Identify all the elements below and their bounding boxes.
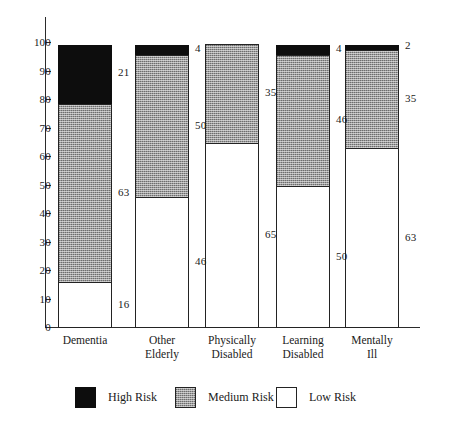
bar-segment-medium-risk[interactable] [58,104,112,284]
bar-segment-low-risk[interactable] [345,148,399,328]
y-tick-label: 90 [25,66,51,77]
y-tick-label: 10 [25,294,51,305]
bar-column[interactable] [135,45,189,327]
legend-item-high-risk[interactable]: High Risk [75,386,157,408]
data-value-label: 50 [336,251,347,262]
data-value-label: 16 [118,299,129,310]
x-axis-label-line1: Dementia [63,334,108,346]
data-value-label: 50 [195,120,206,131]
bar-column[interactable] [58,45,112,327]
x-axis-label-0: Dementia [42,333,128,347]
bar-segment-high-risk[interactable] [58,45,112,105]
x-axis-label-line1: Mentally [351,334,393,346]
legend-swatch-low-risk [276,387,297,408]
bar-column[interactable] [205,44,259,327]
legend-label: High Risk [108,391,157,403]
y-tick-label-wrap: 70 [0,123,51,134]
data-value-label: 35 [405,93,416,104]
bar-segment-medium-risk[interactable] [345,50,399,150]
x-axis-label-line1: Learning [282,334,324,346]
y-tick-label-wrap: 20 [0,265,51,276]
x-axis-label-line1: Physically [208,334,256,346]
y-tick-label: 0 [25,322,51,333]
data-value-label: 35 [265,87,276,98]
y-tick-label: 70 [25,123,51,134]
data-value-label: 21 [118,67,129,78]
y-tick-label: 30 [25,237,51,248]
bar-segment-medium-risk[interactable] [276,55,330,186]
y-tick-label: 50 [25,180,51,191]
chart-legend: High RiskMedium RiskLow Risk [0,386,455,412]
y-tick-label-wrap: 100 [0,37,51,48]
y-tick-label-wrap: 80 [0,94,51,105]
bar-segment-medium-risk[interactable] [205,44,259,144]
data-value-label: 65 [265,229,276,240]
y-tick-label: 60 [25,151,51,162]
bar-column[interactable] [276,45,330,327]
y-tick-label-wrap: 90 [0,66,51,77]
bar-segment-medium-risk[interactable] [135,55,189,198]
x-axis-label-4: MentallyIll [329,333,415,361]
y-tick-label-wrap: 60 [0,151,51,162]
legend-item-low-risk[interactable]: Low Risk [276,386,356,408]
y-axis-line [45,17,46,328]
y-tick-label-wrap: 10 [0,294,51,305]
y-tick-label-wrap: 0 [0,322,51,333]
data-value-label: 63 [118,187,129,198]
y-tick-label-wrap: 50 [0,180,51,191]
bar-segment-low-risk[interactable] [276,186,330,329]
bar-segment-low-risk[interactable] [205,143,259,328]
legend-label: Low Risk [309,391,356,403]
y-tick-label: 80 [25,94,51,105]
bar-column[interactable] [345,45,399,327]
x-axis-label-line2: Ill [329,347,415,361]
data-value-label: 46 [336,114,347,125]
y-tick-label-wrap: 30 [0,237,51,248]
y-tick-label-wrap: 40 [0,208,51,219]
y-tick-label: 40 [25,208,51,219]
stacked-bar-chart: 0102030405060708090100 16632146504653550… [0,0,455,433]
data-value-label: 63 [405,232,416,243]
y-tick-label: 20 [25,265,51,276]
bar-segment-low-risk[interactable] [58,282,112,328]
data-value-label: 2 [405,40,411,51]
data-value-label: 46 [195,256,206,267]
data-value-label: 4 [336,43,342,54]
legend-item-medium-risk[interactable]: Medium Risk [175,386,274,408]
bar-segment-low-risk[interactable] [135,197,189,328]
legend-swatch-medium-risk [175,387,196,408]
legend-label: Medium Risk [208,391,274,403]
legend-swatch-high-risk [75,387,96,408]
y-tick-label: 100 [25,37,51,48]
data-value-label: 4 [195,43,201,54]
x-axis-label-line1: Other [149,334,175,346]
